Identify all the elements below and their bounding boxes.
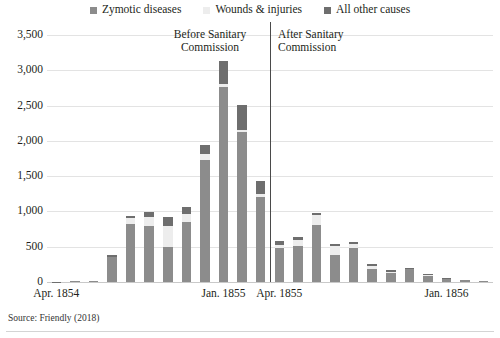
bar-12[interactable] [275, 241, 285, 282]
bar-segment [330, 255, 340, 282]
bar-8[interactable] [200, 145, 210, 282]
y-tick-2000: 2,000 [17, 135, 43, 147]
x-tick-0: Apr. 1854 [33, 288, 79, 300]
legend-item-wounds: Wounds & injuries [203, 4, 302, 16]
y-tick-1000: 1,000 [17, 206, 43, 218]
bar-5[interactable] [144, 212, 154, 282]
sanitary-commission-divider [270, 22, 271, 282]
annotation-after-commission: After Sanitary Commission [278, 28, 378, 54]
footer-rule [6, 331, 494, 332]
chart-legend: Zymotic diseases Wounds & injuries All o… [0, 2, 500, 18]
bar-segment [219, 87, 229, 282]
bar-16[interactable] [349, 242, 359, 282]
x-tick-1: Jan. 1855 [201, 288, 245, 300]
bar-segment [312, 225, 322, 282]
y-tick-1500: 1,500 [17, 170, 43, 182]
bar-segment [293, 246, 303, 282]
bar-segment [163, 217, 173, 226]
bar-1[interactable] [70, 281, 80, 282]
x-axis-labels: Apr. 1854Jan. 1855Apr. 1855Jan. 1856 [0, 288, 500, 304]
bar-segment [182, 214, 192, 222]
bar-segment [219, 61, 229, 84]
x-tick-3: Jan. 1856 [424, 288, 468, 300]
annotation-before-commission: Before Sanitary Commission [160, 28, 260, 54]
bar-3[interactable] [107, 255, 117, 282]
y-tick-2500: 2,500 [17, 100, 43, 112]
bar-segment [89, 281, 99, 282]
legend-item-zymotic: Zymotic diseases [90, 4, 182, 16]
bar-segment [200, 160, 210, 282]
plot-area [47, 35, 493, 282]
bar-23[interactable] [479, 281, 489, 282]
bar-segment [423, 276, 433, 282]
bar-18[interactable] [386, 270, 396, 282]
bar-segment [237, 132, 247, 282]
bar-segment [275, 248, 285, 282]
bar-13[interactable] [293, 237, 303, 282]
bar-7[interactable] [182, 207, 192, 282]
bar-segment [405, 269, 415, 282]
bar-21[interactable] [442, 278, 452, 282]
legend-label-zymotic: Zymotic diseases [102, 4, 182, 16]
bar-17[interactable] [367, 264, 377, 282]
bar-6[interactable] [163, 217, 173, 282]
bar-segment [479, 281, 489, 282]
y-tick-3500: 3,500 [17, 29, 43, 41]
bar-segment [200, 145, 210, 154]
bar-segment [237, 105, 247, 130]
bar-9[interactable] [219, 61, 229, 282]
bar-segment [312, 215, 322, 225]
y-tick-500: 500 [26, 241, 43, 253]
bar-segment [163, 226, 173, 246]
legend-label-other: All other causes [336, 4, 410, 16]
bar-segment [349, 248, 359, 282]
bar-segment [256, 181, 266, 193]
bar-11[interactable] [256, 181, 266, 282]
bar-segment [256, 197, 266, 282]
bar-segment [70, 281, 80, 282]
bar-2[interactable] [89, 281, 99, 282]
bar-segment [107, 257, 117, 282]
bar-segment [126, 224, 136, 282]
bar-20[interactable] [423, 274, 433, 282]
legend-label-wounds: Wounds & injuries [215, 4, 302, 16]
bar-15[interactable] [330, 244, 340, 282]
y-axis-labels: 05001,0001,5002,0002,5003,0003,500 [0, 35, 43, 282]
legend-swatch-zymotic [90, 7, 97, 14]
bar-22[interactable] [460, 280, 470, 282]
legend-swatch-wounds [203, 7, 210, 14]
bar-segment [367, 269, 377, 282]
source-note: Source: Friendly (2018) [8, 313, 99, 324]
bar-segment [460, 280, 470, 282]
bar-segment [386, 273, 396, 282]
bar-segment [163, 247, 173, 282]
legend-swatch-other [324, 7, 331, 14]
bar-10[interactable] [237, 105, 247, 282]
x-tick-2: Apr. 1855 [256, 288, 302, 300]
y-tick-3000: 3,000 [17, 65, 43, 77]
bar-segment [442, 279, 452, 282]
bar-segment [144, 226, 154, 282]
bar-4[interactable] [126, 216, 136, 282]
bar-segment [144, 217, 154, 226]
bar-segment [182, 222, 192, 282]
bar-19[interactable] [405, 268, 415, 282]
bar-segment [330, 246, 340, 255]
bar-segment [182, 207, 192, 214]
mortality-stacked-bar-chart: Zymotic diseases Wounds & injuries All o… [0, 0, 500, 338]
legend-item-other: All other causes [324, 4, 410, 16]
gridline-0 [47, 282, 493, 283]
bar-14[interactable] [312, 213, 322, 282]
